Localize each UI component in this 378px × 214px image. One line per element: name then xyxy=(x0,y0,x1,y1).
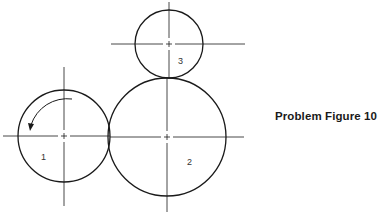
gear-2-centerlines xyxy=(110,78,244,212)
gear-2-label: 2 xyxy=(187,157,192,167)
gear-train-diagram: 1 2 3 xyxy=(0,0,378,214)
gear-3-label: 3 xyxy=(178,56,183,66)
gear-1-label: 1 xyxy=(41,152,46,162)
gear-1-centerlines xyxy=(3,67,110,206)
figure-caption: Problem Figure 10 xyxy=(275,110,377,122)
rotation-arrow-icon xyxy=(28,99,72,131)
gear-3-centerlines xyxy=(111,2,245,78)
